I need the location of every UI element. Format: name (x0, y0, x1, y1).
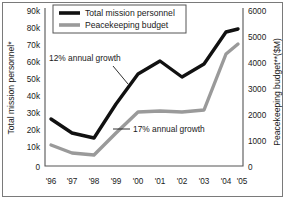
right-tick-3000: 3000 (248, 85, 267, 94)
right-tick-1000: 1000 (248, 137, 267, 146)
x-tick-01: '01 (155, 177, 166, 186)
left-axis-title: Total mission personnel* (6, 41, 16, 135)
annotation-12-percent-leader-line (113, 66, 128, 84)
x-tick-05: '05 (237, 177, 248, 186)
left-tick-0: 0 (35, 163, 40, 172)
right-tick-5000: 5000 (248, 33, 267, 42)
x-tick-03: '03 (199, 177, 210, 186)
annotation-17-percent-growth: 17% annual growth (113, 124, 205, 134)
annotation-12-percent-label: 12% annual growth (49, 53, 121, 63)
left-axis-tick-labels: 90k 80k 70k 60k 50k 40k 30k 20k 10k 0 (27, 7, 41, 172)
annotation-12-percent-growth: 12% annual growth (49, 53, 128, 84)
x-tick-99: '99 (111, 177, 122, 186)
annotation-17-percent-label: 17% annual growth (133, 124, 205, 134)
right-tick-2000: 2000 (248, 111, 267, 120)
x-tick-96: '96 (46, 177, 57, 186)
right-tick-6000: 6000 (248, 7, 267, 16)
left-tick-80k: 80k (27, 24, 41, 33)
left-tick-50k: 50k (27, 75, 41, 84)
left-tick-90k: 90k (27, 7, 41, 16)
dual-axis-line-chart: 90k 80k 70k 60k 50k 40k 30k 20k 10k 0 60… (0, 0, 288, 201)
left-tick-10k: 10k (27, 143, 41, 152)
left-tick-70k: 70k (27, 41, 41, 50)
right-tick-4000: 4000 (248, 59, 267, 68)
x-axis-tick-labels: '96 '97 '98 '99 '00 '01 '02 '03 '04 '05 (46, 177, 248, 186)
chart-legend: Total mission personnel Peacekeeping bud… (53, 5, 186, 33)
legend-label-personnel: Total mission personnel (85, 8, 175, 18)
left-tick-30k: 30k (27, 109, 41, 118)
left-tick-60k: 60k (27, 58, 41, 67)
x-tick-00: '00 (133, 177, 144, 186)
left-tick-20k: 20k (27, 126, 41, 135)
x-tick-04: '04 (221, 177, 232, 186)
right-axis-title: Peacekeeping budget**($M) (272, 38, 282, 146)
x-tick-02: '02 (177, 177, 188, 186)
left-tick-40k: 40k (27, 92, 41, 101)
x-tick-97: '97 (67, 177, 78, 186)
chart-svg: 90k 80k 70k 60k 50k 40k 30k 20k 10k 0 60… (0, 0, 288, 201)
legend-label-budget: Peacekeeping budget (85, 20, 169, 30)
x-tick-98: '98 (89, 177, 100, 186)
right-tick-0: 0 (248, 163, 253, 172)
right-axis-tick-labels: 6000 5000 4000 3000 2000 1000 0 (248, 7, 267, 172)
series-line-total-mission-personnel (51, 29, 238, 138)
